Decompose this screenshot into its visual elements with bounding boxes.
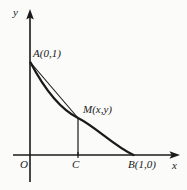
- x-axis-label: x: [172, 160, 177, 171]
- curve-amb: [31, 63, 134, 156]
- chord-segment-am: [31, 63, 79, 119]
- point-label-b: B(1,0): [128, 159, 156, 170]
- geometry-figure: y x O A(0,1) M(x,y) C B(1,0): [0, 0, 187, 190]
- point-label-m: M(x,y): [83, 104, 112, 115]
- point-label-c: C: [72, 159, 79, 170]
- figure-canvas: [0, 0, 187, 190]
- point-label-a: A(0,1): [33, 48, 61, 59]
- origin-label: O: [20, 159, 28, 170]
- y-axis-label: y: [13, 7, 18, 18]
